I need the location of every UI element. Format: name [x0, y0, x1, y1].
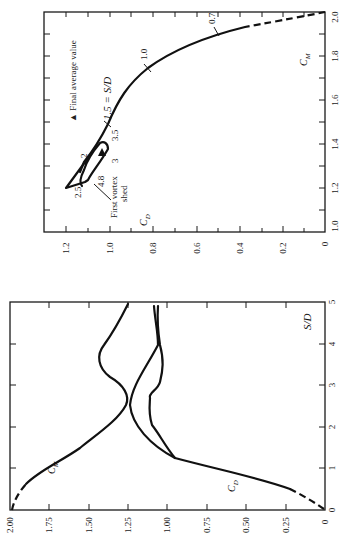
- svg-text:▲ Final average value: ▲ Final average value: [68, 40, 78, 122]
- svg-text:1.00: 1.00: [162, 517, 172, 533]
- cd-curve-dashed: [290, 489, 324, 509]
- svg-text:3.5: 3.5: [110, 129, 120, 141]
- top-plot-frame: [44, 12, 325, 232]
- svg-text:1.50: 1.50: [84, 517, 94, 533]
- cm-axis-ticks: [44, 34, 325, 210]
- svg-text:2.0: 2.0: [330, 11, 340, 23]
- svg-text:1.4: 1.4: [330, 138, 340, 150]
- svg-text:1.5 = S/D: 1.5 = S/D: [101, 77, 113, 120]
- cm-tick-labels: 1.0 1.2 1.4 1.6 1.8 2.0: [330, 11, 340, 232]
- svg-text:0: 0: [327, 507, 337, 512]
- svg-text:1.0: 1.0: [330, 220, 340, 232]
- top-cd-axis-label: CD: [138, 214, 152, 226]
- svg-text:0.6: 0.6: [192, 242, 202, 254]
- svg-text:First vortex: First vortex: [109, 176, 119, 218]
- svg-text:2.00: 2.00: [5, 517, 15, 533]
- svg-text:1.0: 1.0: [105, 242, 115, 254]
- svg-text:4: 4: [327, 341, 337, 346]
- cd-upper-curve: [130, 306, 290, 489]
- svg-text:2.5: 2.5: [73, 186, 83, 198]
- svg-text:1.6: 1.6: [330, 94, 340, 106]
- curve-point-ticks: [104, 27, 219, 127]
- coef-tick-labels: 2.00 1.75 1.50 1.25 1.00 0.75 0.50 0.25 …: [5, 517, 330, 533]
- final-average-marker: [98, 148, 106, 156]
- svg-text:1: 1: [327, 466, 337, 471]
- svg-text:0.25: 0.25: [281, 517, 291, 533]
- cd-axis-ticks: [66, 12, 304, 232]
- svg-text:0: 0: [320, 241, 330, 246]
- svg-text:0.2: 0.2: [278, 242, 288, 253]
- sd-axis-label: S/D: [301, 313, 313, 330]
- svg-text:3: 3: [327, 382, 337, 387]
- cm-curve: [26, 304, 128, 484]
- svg-text:0.75: 0.75: [202, 517, 212, 533]
- svg-text:3: 3: [110, 158, 120, 163]
- svg-text:1.25: 1.25: [123, 517, 133, 533]
- cd-cm-curve-dashed: [245, 12, 325, 27]
- svg-text:shed: shed: [119, 185, 129, 202]
- svg-text:2: 2: [79, 154, 89, 159]
- svg-text:0.8: 0.8: [148, 242, 158, 254]
- svg-text:1.8: 1.8: [330, 50, 340, 62]
- figure: 1.2 1.0 0.8 0.6 0.4 0.2 0 1.0 1.2 1.4 1.…: [0, 0, 352, 540]
- bottom-panel: 2.00 1.75 1.50 1.25 1.00 0.75 0.50 0.25 …: [5, 299, 337, 533]
- bottom-cd-label: CD: [226, 480, 240, 492]
- svg-text:0.4: 0.4: [235, 242, 245, 254]
- coef-axis-ticks: [49, 302, 286, 510]
- bottom-plot-frame: [10, 302, 325, 510]
- cd-tick-labels: 1.2 1.0 0.8 0.6 0.4 0.2 0: [61, 241, 330, 253]
- top-cm-axis-label: CM: [298, 52, 312, 66]
- svg-text:5: 5: [327, 299, 337, 304]
- cd-lower-curve: [150, 306, 176, 458]
- svg-text:2: 2: [327, 425, 337, 430]
- svg-text:1.0: 1.0: [139, 48, 149, 60]
- svg-text:0: 0: [320, 519, 330, 524]
- svg-text:0.7: 0.7: [207, 12, 217, 24]
- svg-text:1.75: 1.75: [44, 517, 54, 533]
- sd-tick-labels: 0 1 2 3 4 5: [327, 299, 337, 512]
- top-panel: 1.2 1.0 0.8 0.6 0.4 0.2 0 1.0 1.2 1.4 1.…: [44, 11, 340, 254]
- svg-text:1.2: 1.2: [61, 242, 71, 253]
- svg-text:1.2: 1.2: [330, 182, 340, 193]
- svg-text:0.50: 0.50: [241, 517, 251, 533]
- cm-curve-dashed: [12, 484, 26, 510]
- svg-text:4.8: 4.8: [96, 175, 106, 187]
